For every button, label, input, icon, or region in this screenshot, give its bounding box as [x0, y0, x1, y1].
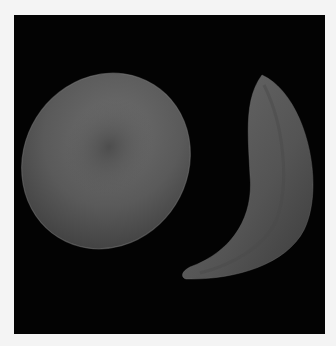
normal-red-blood-cell: [14, 41, 223, 281]
image-panel: [14, 15, 325, 334]
sickle-red-blood-cell: [183, 75, 313, 279]
cells-illustration: [14, 15, 325, 334]
